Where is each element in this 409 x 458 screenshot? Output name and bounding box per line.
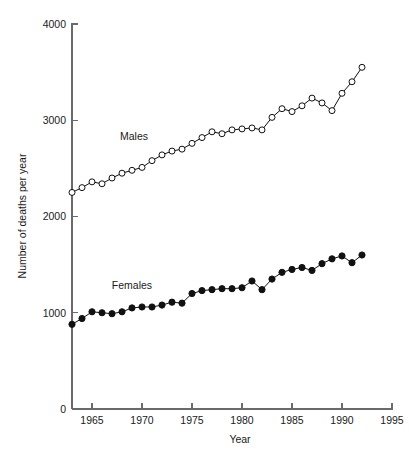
data-point (299, 103, 305, 109)
data-point (239, 285, 245, 291)
data-point (159, 152, 165, 158)
data-point (319, 261, 325, 267)
data-point (289, 266, 295, 272)
data-point (239, 126, 245, 132)
data-point (219, 286, 225, 292)
data-point (99, 310, 105, 316)
data-point (189, 290, 195, 296)
data-point (199, 288, 205, 294)
data-point (139, 304, 145, 310)
data-point (299, 264, 305, 270)
x-axis-ticks: 1965197019751980198519901995 (80, 403, 404, 426)
data-point (269, 114, 275, 120)
data-point (149, 304, 155, 310)
y-axis-title: Number of deaths per year (16, 153, 28, 278)
axes (72, 23, 393, 409)
x-tick-label: 1975 (180, 414, 204, 426)
data-point (189, 140, 195, 146)
data-point (249, 278, 255, 284)
data-point (309, 267, 315, 273)
data-point (229, 127, 235, 133)
x-tick-label: 1980 (230, 414, 254, 426)
data-point (119, 170, 125, 176)
line-chart: 01000200030004000 1965197019751980198519… (0, 0, 409, 458)
data-point (139, 164, 145, 170)
y-tick-label: 0 (60, 403, 66, 415)
x-tick-label: 1990 (330, 414, 354, 426)
data-point (279, 269, 285, 275)
data-point (179, 146, 185, 152)
x-axis-title: Year (229, 433, 251, 445)
data-point (179, 300, 185, 306)
data-point (339, 253, 345, 259)
data-point (209, 287, 215, 293)
chart-container: 01000200030004000 1965197019751980198519… (0, 0, 409, 458)
series-label: Females (112, 279, 152, 291)
data-point (69, 189, 75, 195)
data-point (289, 109, 295, 115)
data-point (359, 252, 365, 258)
x-tick-label: 1970 (130, 414, 154, 426)
data-point (359, 64, 365, 70)
data-point (89, 179, 95, 185)
data-point (279, 106, 285, 112)
data-point (109, 175, 115, 181)
data-point (109, 311, 115, 317)
data-point (309, 95, 315, 101)
data-point (259, 287, 265, 293)
data-point (319, 100, 325, 106)
x-tick-label: 1985 (280, 414, 304, 426)
data-point (69, 321, 75, 327)
data-point (119, 309, 125, 315)
data-point (149, 158, 155, 164)
y-tick-label: 2000 (43, 210, 67, 222)
data-point (339, 90, 345, 96)
x-tick-label: 1965 (80, 414, 104, 426)
data-point (79, 185, 85, 191)
y-tick-label: 4000 (43, 18, 67, 30)
data-point (159, 302, 165, 308)
data-point (259, 127, 265, 133)
data-point (199, 135, 205, 141)
data-point (329, 256, 335, 262)
series-line (72, 67, 362, 192)
data-point (129, 305, 135, 311)
data-point (99, 181, 105, 187)
data-point (269, 276, 275, 282)
y-tick-label: 1000 (43, 307, 67, 319)
data-point (209, 129, 215, 135)
series-label: Males (120, 130, 148, 142)
data-point (219, 131, 225, 137)
data-point (79, 315, 85, 321)
series-males (69, 64, 365, 195)
data-point (129, 167, 135, 173)
data-point (329, 108, 335, 114)
data-point (349, 79, 355, 85)
x-tick-label: 1995 (380, 414, 404, 426)
data-point (169, 299, 175, 305)
data-point (89, 309, 95, 315)
data-point (229, 286, 235, 292)
y-tick-label: 3000 (43, 114, 67, 126)
y-axis-ticks: 01000200030004000 (43, 18, 78, 415)
data-point (249, 125, 255, 131)
data-point (169, 148, 175, 154)
series-annotations: MalesFemales (112, 130, 152, 290)
data-point (349, 260, 355, 266)
